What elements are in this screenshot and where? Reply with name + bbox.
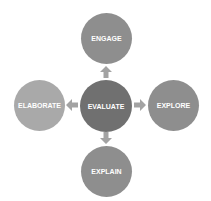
node-evaluate-label: EVALUATE [88, 103, 125, 110]
arrow-up-icon [100, 66, 112, 78]
node-elaborate: ELABORATE [14, 80, 65, 131]
node-explore-label: EXPLORE [157, 102, 190, 109]
node-explain: EXPLAIN [81, 146, 132, 197]
node-elaborate-label: ELABORATE [18, 102, 61, 109]
node-explore: EXPLORE [148, 80, 199, 131]
arrow-right-icon [134, 99, 146, 111]
node-engage-label: ENGAGE [91, 35, 121, 42]
node-evaluate: EVALUATE [80, 80, 132, 132]
arrow-left-icon [66, 99, 78, 111]
node-explain-label: EXPLAIN [91, 168, 121, 175]
node-engage: ENGAGE [81, 13, 132, 64]
arrow-down-icon [100, 132, 112, 144]
